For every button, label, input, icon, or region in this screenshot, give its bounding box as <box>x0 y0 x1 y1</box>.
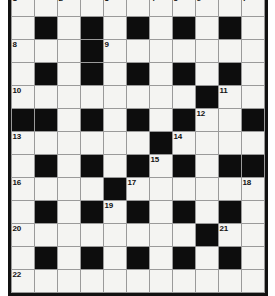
open-square[interactable] <box>173 224 195 246</box>
open-square[interactable] <box>150 40 172 62</box>
open-square[interactable] <box>58 132 80 154</box>
open-square[interactable]: 13 <box>12 132 34 154</box>
open-square[interactable]: 7 <box>242 0 264 16</box>
open-square[interactable] <box>242 40 264 62</box>
open-square[interactable] <box>35 224 57 246</box>
open-square[interactable] <box>58 201 80 223</box>
open-square[interactable]: 22 <box>12 270 34 292</box>
open-square[interactable] <box>58 86 80 108</box>
open-square[interactable]: 14 <box>173 132 195 154</box>
open-square[interactable] <box>12 17 34 39</box>
open-square[interactable] <box>58 17 80 39</box>
open-square[interactable] <box>127 132 149 154</box>
open-square[interactable]: 2 <box>58 0 80 16</box>
open-square[interactable] <box>58 247 80 269</box>
open-square[interactable]: 20 <box>12 224 34 246</box>
open-square[interactable] <box>81 178 103 200</box>
open-square[interactable]: 11 <box>219 86 241 108</box>
open-square[interactable] <box>196 40 218 62</box>
open-square[interactable] <box>219 132 241 154</box>
open-square[interactable]: 16 <box>12 178 34 200</box>
open-square[interactable] <box>35 178 57 200</box>
open-square[interactable] <box>127 40 149 62</box>
open-square[interactable] <box>219 109 241 131</box>
open-square[interactable] <box>150 86 172 108</box>
open-square[interactable] <box>150 247 172 269</box>
open-square[interactable]: 15 <box>150 155 172 177</box>
open-square[interactable] <box>173 270 195 292</box>
open-square[interactable] <box>35 270 57 292</box>
open-square[interactable] <box>242 132 264 154</box>
open-square[interactable] <box>242 201 264 223</box>
open-square[interactable] <box>81 270 103 292</box>
open-square[interactable] <box>35 86 57 108</box>
open-square[interactable] <box>150 224 172 246</box>
open-square[interactable]: 1 <box>12 0 34 16</box>
open-square[interactable] <box>12 201 34 223</box>
open-square[interactable] <box>58 178 80 200</box>
open-square[interactable] <box>58 63 80 85</box>
open-square[interactable] <box>81 224 103 246</box>
open-square[interactable]: 17 <box>127 178 149 200</box>
open-square[interactable] <box>196 201 218 223</box>
open-square[interactable] <box>173 40 195 62</box>
open-square[interactable] <box>242 86 264 108</box>
open-square[interactable] <box>127 270 149 292</box>
open-square[interactable] <box>196 155 218 177</box>
open-square[interactable] <box>219 178 241 200</box>
open-square[interactable] <box>150 201 172 223</box>
open-square[interactable]: 4 <box>150 0 172 16</box>
open-square[interactable] <box>150 270 172 292</box>
open-square[interactable] <box>81 132 103 154</box>
open-square[interactable] <box>219 0 241 16</box>
open-square[interactable] <box>173 178 195 200</box>
open-square[interactable] <box>104 132 126 154</box>
open-square[interactable] <box>104 109 126 131</box>
open-square[interactable] <box>242 224 264 246</box>
open-square[interactable]: 21 <box>219 224 241 246</box>
open-square[interactable] <box>242 63 264 85</box>
open-square[interactable]: 19 <box>104 201 126 223</box>
open-square[interactable] <box>242 270 264 292</box>
open-square[interactable] <box>104 247 126 269</box>
open-square[interactable] <box>12 63 34 85</box>
crossword-grid[interactable]: 12345678910111213141516171819202122 <box>11 0 265 293</box>
open-square[interactable]: 18 <box>242 178 264 200</box>
open-square[interactable] <box>150 178 172 200</box>
open-square[interactable]: 12 <box>196 109 218 131</box>
open-square[interactable]: 8 <box>12 40 34 62</box>
open-square[interactable] <box>104 270 126 292</box>
open-square[interactable] <box>127 86 149 108</box>
open-square[interactable] <box>81 0 103 16</box>
open-square[interactable] <box>58 109 80 131</box>
open-square[interactable] <box>12 155 34 177</box>
open-square[interactable] <box>104 63 126 85</box>
open-square[interactable] <box>173 86 195 108</box>
open-square[interactable] <box>150 17 172 39</box>
open-square[interactable] <box>104 224 126 246</box>
open-square[interactable] <box>81 86 103 108</box>
open-square[interactable] <box>219 270 241 292</box>
open-square[interactable] <box>35 132 57 154</box>
open-square[interactable] <box>242 17 264 39</box>
open-square[interactable] <box>150 109 172 131</box>
open-square[interactable] <box>150 63 172 85</box>
open-square[interactable] <box>196 178 218 200</box>
open-square[interactable]: 9 <box>104 40 126 62</box>
open-square[interactable] <box>196 270 218 292</box>
open-square[interactable] <box>58 40 80 62</box>
open-square[interactable] <box>35 40 57 62</box>
open-square[interactable]: 6 <box>196 0 218 16</box>
open-square[interactable] <box>104 17 126 39</box>
open-square[interactable] <box>58 224 80 246</box>
open-square[interactable] <box>12 247 34 269</box>
open-square[interactable] <box>58 270 80 292</box>
open-square[interactable] <box>219 40 241 62</box>
open-square[interactable] <box>58 155 80 177</box>
open-square[interactable] <box>35 0 57 16</box>
open-square[interactable]: 3 <box>104 0 126 16</box>
open-square[interactable]: 10 <box>12 86 34 108</box>
open-square[interactable] <box>127 0 149 16</box>
open-square[interactable] <box>127 224 149 246</box>
open-square[interactable] <box>196 247 218 269</box>
